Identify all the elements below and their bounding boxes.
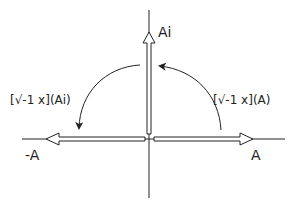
label-ai: Ai <box>158 24 171 40</box>
vector-neg-a-arrow <box>46 133 145 145</box>
label-a: A <box>251 147 261 163</box>
label-neg-a: -A <box>25 147 40 163</box>
vector-a-arrow <box>154 133 253 145</box>
complex-plane-diagram: Ai A -A [√-1 x](Ai) [√-1 x](A) <box>0 0 296 206</box>
label-rotation-a: [√-1 x](A) <box>213 93 270 107</box>
vector-ai-arrow <box>143 32 155 134</box>
rotation-arc-ai-to-neg-a <box>79 65 140 128</box>
rotation-arc-a-to-ai <box>160 66 221 130</box>
label-rotation-ai: [√-1 x](Ai) <box>10 93 71 107</box>
